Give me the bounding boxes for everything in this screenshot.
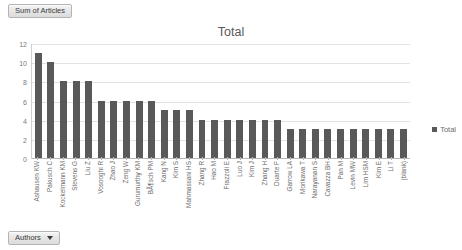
bar[interactable] — [274, 120, 281, 158]
x-axis-tick-label: Duarte F — [274, 161, 280, 186]
bar-slot — [120, 44, 133, 158]
bar[interactable] — [35, 53, 42, 158]
bar[interactable] — [211, 120, 218, 158]
legend-label: Total — [440, 125, 456, 134]
y-axis: 024681012 — [10, 44, 30, 159]
x-axis-tick-label: Luo J — [236, 161, 242, 177]
bar[interactable] — [375, 129, 382, 158]
bar[interactable] — [110, 101, 117, 159]
x-tick-slot: Hao M — [208, 160, 221, 222]
x-tick-slot: BÃ¶sch PM — [145, 160, 158, 222]
chart-legend: Total — [432, 125, 456, 134]
bar-slot — [208, 44, 221, 158]
bar[interactable] — [299, 129, 306, 158]
chart-title: Total — [0, 25, 462, 39]
bar-slot — [108, 44, 121, 158]
x-tickmark — [63, 157, 64, 160]
plot-area: 024681012 — [10, 44, 410, 159]
bar[interactable] — [312, 129, 319, 158]
bar-slot — [145, 44, 158, 158]
x-axis-tick-label: Lim HSM — [363, 161, 369, 187]
bar[interactable] — [123, 101, 130, 159]
y-axis-tick-label: 6 — [23, 98, 27, 105]
bar-slot — [57, 44, 70, 158]
bar[interactable] — [98, 101, 105, 159]
bar[interactable] — [47, 62, 54, 158]
x-tick-slot: Lim HSM — [360, 160, 373, 222]
x-tickmark — [379, 157, 380, 160]
x-axis-tick-label: Zhang R — [198, 161, 204, 186]
pivot-value-field-label: Sum of Articles — [15, 7, 65, 15]
x-tick-slot: Zhang H — [259, 160, 272, 222]
x-tick-slot: Garrow LA — [284, 160, 297, 222]
x-axis-tick-label: Levin MW — [350, 161, 356, 189]
bar-slot — [334, 44, 347, 158]
bar[interactable] — [60, 81, 67, 158]
x-axis-tick-label: Morikawa T — [300, 161, 306, 194]
pivot-value-field-button[interactable]: Sum of Articles — [8, 4, 72, 18]
bar[interactable] — [236, 120, 243, 158]
bar-slot — [32, 44, 45, 158]
plot-canvas — [31, 44, 410, 159]
bar[interactable] — [287, 129, 294, 158]
bar[interactable] — [148, 101, 155, 159]
bar[interactable] — [262, 120, 269, 158]
x-tickmark — [290, 157, 291, 160]
bar-slot — [133, 44, 146, 158]
bar[interactable] — [337, 129, 344, 158]
bar-slot — [183, 44, 196, 158]
bar[interactable] — [324, 129, 331, 158]
x-tickmark — [240, 157, 241, 160]
x-axis-tick-label: Li T — [388, 161, 394, 172]
x-tickmark — [88, 157, 89, 160]
x-tick-slot: Cavazza BH — [322, 160, 335, 222]
bar[interactable] — [350, 129, 357, 158]
x-tick-slot: Morikawa T — [296, 160, 309, 222]
x-tick-slot: Liu Z — [82, 160, 95, 222]
bar-slot — [284, 44, 297, 158]
x-tickmark — [113, 157, 114, 160]
bar[interactable] — [199, 120, 206, 158]
x-tickmark — [353, 157, 354, 160]
x-axis-tick-label: Zhang H — [262, 161, 268, 186]
x-tickmark — [75, 157, 76, 160]
authors-filter-button[interactable]: Authors — [8, 231, 60, 245]
x-axis-tick-label: Vosooghi R — [97, 161, 103, 194]
bar[interactable] — [85, 81, 92, 158]
x-tick-slot: Li T — [385, 160, 398, 222]
bar-slot — [95, 44, 108, 158]
bar[interactable] — [249, 120, 256, 158]
bar[interactable] — [400, 129, 407, 158]
chevron-down-icon[interactable] — [47, 236, 53, 240]
x-axis-tick-label: Stevens G — [72, 161, 78, 191]
y-axis-tick-label: 2 — [23, 136, 27, 143]
bar-slot — [347, 44, 360, 158]
authors-filter-label: Authors — [15, 234, 41, 242]
bar[interactable] — [73, 81, 80, 158]
x-tick-slot: Levin MW — [347, 160, 360, 222]
bar[interactable] — [362, 129, 369, 158]
x-tickmark — [366, 157, 367, 160]
pivot-chart[interactable]: Total 024681012 Ashausen KWPakusch CKock… — [0, 20, 462, 225]
x-tick-slot: Luo J — [233, 160, 246, 222]
bar-slot — [221, 44, 234, 158]
bar[interactable] — [173, 110, 180, 158]
x-axis-tick-label: Gurumurthy KM — [135, 161, 141, 206]
x-axis-tick-label: Kang N — [161, 161, 167, 182]
bar-slot — [158, 44, 171, 158]
x-tick-slot: Kim E — [372, 160, 385, 222]
bar[interactable] — [161, 110, 168, 158]
x-axis-tick-label: Kim E — [375, 161, 381, 178]
x-tick-slot: Zhang R — [195, 160, 208, 222]
bar[interactable] — [387, 129, 394, 158]
x-tickmark — [164, 157, 165, 160]
bar[interactable] — [224, 120, 231, 158]
bar[interactable] — [136, 101, 143, 159]
x-tick-slot: Zeng W — [119, 160, 132, 222]
x-tick-slot: Zhao J — [107, 160, 120, 222]
x-tickmark — [151, 157, 152, 160]
x-tick-slot: Duarte F — [271, 160, 284, 222]
bar[interactable] — [186, 110, 193, 158]
x-tickmark — [138, 157, 139, 160]
x-axis-tick-label: Ashausen KW — [34, 161, 40, 202]
